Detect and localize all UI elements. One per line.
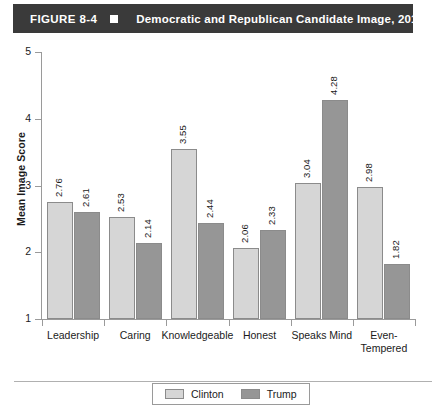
y-tick-mark — [35, 52, 42, 53]
bar-clinton[interactable]: 2.98 — [357, 187, 383, 319]
bar-value-label: 3.55 — [177, 125, 188, 144]
y-tick-label: 2 — [16, 245, 31, 257]
bar-value-label: 4.28 — [328, 76, 339, 95]
bar-trump[interactable]: 2.14 — [136, 243, 162, 319]
bar-value-label: 2.44 — [204, 199, 215, 218]
bar-group: 2.062.33 — [233, 52, 286, 319]
x-tick-mark — [104, 319, 105, 326]
x-tick-mark — [291, 319, 292, 326]
bar-value-label: 1.82 — [390, 240, 401, 259]
bar-value-label: 2.98 — [363, 163, 374, 182]
bar-value-label: 3.04 — [301, 159, 312, 178]
bar-value-label: 2.53 — [115, 193, 126, 212]
y-tick-mark — [35, 252, 42, 253]
figure-header-bar: FIGURE 8-4 Democratic and Republican Can… — [13, 4, 413, 33]
x-axis-category-label: Even- Tempered — [345, 329, 423, 354]
bar-value-label: 2.33 — [266, 206, 277, 225]
bar-clinton[interactable]: 2.76 — [47, 202, 73, 319]
legend-label: Trump — [267, 388, 297, 400]
y-tick-label: 1 — [16, 312, 31, 324]
y-tick-mark — [35, 319, 42, 320]
legend-item-trump[interactable]: Trump — [241, 388, 297, 400]
y-tick-label: 5 — [16, 45, 31, 57]
bar-trump[interactable]: 1.82 — [384, 264, 410, 319]
bar-chart: Mean Image Score 12345 2.762.612.532.143… — [0, 33, 446, 393]
bar-trump[interactable]: 2.61 — [74, 212, 100, 319]
legend-swatch — [165, 389, 184, 399]
bar-trump[interactable]: 2.44 — [198, 223, 224, 319]
bar-clinton[interactable]: 3.55 — [171, 149, 197, 319]
bar-clinton[interactable]: 2.06 — [233, 248, 259, 319]
bar-trump[interactable]: 2.33 — [260, 230, 286, 319]
bar-value-label: 2.61 — [80, 188, 91, 207]
x-tick-mark — [415, 319, 416, 326]
y-tick-mark — [35, 119, 42, 120]
bar-trump[interactable]: 4.28 — [322, 100, 348, 319]
bar-group: 2.532.14 — [109, 52, 162, 319]
bar-value-label: 2.76 — [53, 178, 64, 197]
square-marker-icon — [110, 15, 118, 23]
bar-clinton[interactable]: 3.04 — [295, 183, 321, 319]
bar-group: 2.981.82 — [357, 52, 410, 319]
plot-area: 2.762.612.532.143.552.442.062.333.044.28… — [42, 52, 415, 319]
bar-clinton[interactable]: 2.53 — [109, 217, 135, 319]
x-tick-mark — [229, 319, 230, 326]
x-tick-mark — [353, 319, 354, 326]
x-tick-mark — [166, 319, 167, 326]
bar-group: 2.762.61 — [47, 52, 100, 319]
y-tick-label: 3 — [16, 179, 31, 191]
figure-title: Democratic and Republican Candidate Imag… — [136, 13, 424, 25]
y-tick-mark — [35, 186, 42, 187]
bar-group: 3.552.44 — [171, 52, 224, 319]
figure-number: FIGURE 8-4 — [30, 13, 97, 25]
chart-legend: ClintonTrump — [152, 383, 310, 405]
y-tick-label: 4 — [16, 112, 31, 124]
legend-label: Clinton — [191, 388, 224, 400]
x-tick-mark — [42, 319, 43, 326]
bottom-divider — [14, 381, 432, 382]
legend-swatch — [241, 389, 260, 399]
bar-value-label: 2.14 — [142, 219, 153, 238]
bar-value-label: 2.06 — [239, 224, 250, 243]
bar-group: 3.044.28 — [295, 52, 348, 319]
legend-item-clinton[interactable]: Clinton — [165, 388, 224, 400]
